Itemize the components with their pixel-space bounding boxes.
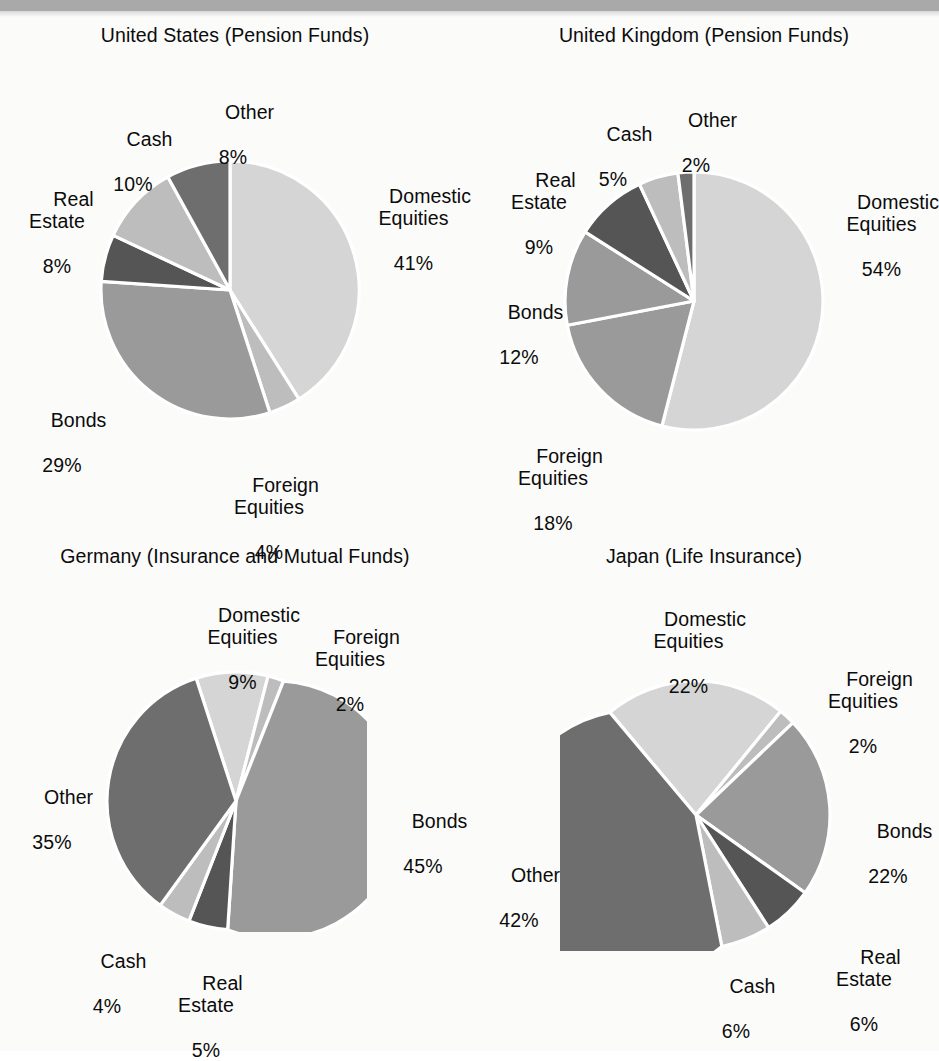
chart-title-united-kingdom: United Kingdom (Pension Funds) [469,24,939,47]
pie-label-domestic-equities-value: 9% [180,671,305,694]
pie-panel-japan: Japan (Life Insurance) [469,545,939,1051]
pie-label-other-name: Other [225,101,274,123]
pie-label-foreign-equities-name: Foreign Equities [828,668,913,713]
pie-label-bonds-name: Bonds [412,810,468,832]
pie-label-bonds-value: 29% [7,454,117,477]
pie-label-cash-name: Cash [101,950,147,972]
pie-label-other: Other 35% [0,763,107,898]
pie-label-cash-value: 6% [681,1020,791,1043]
pie-label-bonds: Bonds 29% [7,386,117,521]
pie-label-cash-value: 4% [52,995,162,1018]
pie-label-cash: Cash 4% [52,927,162,1061]
chart-title-united-states: United States (Pension Funds) [0,24,470,47]
pie-label-real-estate: Real Estate 5% [151,949,261,1061]
pie-label-foreign-equities-name: Foreign Equities [518,445,603,490]
pie-label-domestic-equities-name: Domestic Equities [207,604,300,649]
pie-label-other: Other 8% [178,78,288,213]
pie-label-real-estate-name: Real Estate [178,972,243,1017]
pie-panel-united-states: United States (Pension Funds) [0,24,470,540]
pie-label-cash-name: Cash [730,975,776,997]
pie-label-foreign-equities-name: Foreign Equities [315,626,400,671]
pie-label-bonds-name: Bonds [877,820,933,842]
pie-label-other: Other 42% [464,841,574,976]
pie-label-foreign-equities: Foreign Equities 2% [803,645,923,803]
pie-label-bonds: Bonds 12% [464,278,574,413]
chart-title-japan: Japan (Life Insurance) [469,545,939,568]
pie-label-other-value: 42% [464,909,574,932]
pie-label-real-estate-value: 8% [2,255,112,278]
pie-label-bonds-name: Bonds [508,301,564,323]
pie-label-bonds-value: 22% [833,865,939,888]
pie-label-foreign-equities: Foreign Equities 2% [290,603,410,761]
pie-label-bonds: Bonds 22% [833,797,939,932]
pie-label-real-estate-value: 9% [484,236,594,259]
pie-label-domestic-equities-value: 41% [351,252,476,275]
pie-label-other-value: 8% [178,146,288,169]
pie-label-domestic-equities: Domestic Equities 54% [819,168,939,326]
pie-label-real-estate-value: 6% [809,1013,919,1036]
pie-label-cash-name: Cash [607,123,653,145]
pie-label-foreign-equities-value: 18% [493,512,613,535]
pie-panel-germany: Germany (Insurance and Mutual Funds) [0,545,470,1051]
pie-label-real-estate-name: Real Estate [29,188,94,233]
pie-label-domestic-equities-name: Domestic Equities [378,185,471,230]
pie-label-cash: Cash 6% [681,952,791,1061]
pie-label-bonds-value: 12% [464,346,574,369]
pie-label-cash-name: Cash [127,128,173,150]
pie-label-domestic-equities-value: 22% [626,675,751,698]
pie-label-domestic-equities: Domestic Equities 22% [626,585,751,743]
pie-label-real-estate-value: 5% [151,1039,261,1061]
pie-label-domestic-equities-name: Domestic Equities [846,191,939,236]
pie-label-real-estate-name: Real Estate [836,946,901,991]
pie-label-real-estate: Real Estate 6% [809,923,919,1061]
pie-label-real-estate: Real Estate 8% [2,165,112,323]
pie-label-domestic-equities: Domestic Equities 9% [180,581,305,739]
pie-label-foreign-equities-name: Foreign Equities [234,474,319,519]
pie-label-foreign-equities-value: 2% [803,735,923,758]
pie-label-bonds-name: Bonds [51,409,107,431]
pie-label-domestic-equities: Domestic Equities 41% [351,162,476,320]
pie-label-other-name: Other [511,864,560,886]
pie-label-domestic-equities-name: Domestic Equities [653,608,746,653]
pie-label-other-value: 35% [0,831,107,854]
pie-label-real-estate-name: Real Estate [511,169,576,214]
pie-label-domestic-equities-value: 54% [819,258,939,281]
pie-label-bonds: Bonds 45% [368,787,478,922]
chart-title-germany: Germany (Insurance and Mutual Funds) [0,545,470,568]
pie-label-other-name: Other [44,786,93,808]
pie-label-bonds-value: 45% [368,855,478,878]
pie-label-other-name: Other [688,109,737,131]
pie-panel-united-kingdom: United Kingdom (Pension Funds) [469,24,939,540]
pie-label-foreign-equities-value: 2% [290,693,410,716]
